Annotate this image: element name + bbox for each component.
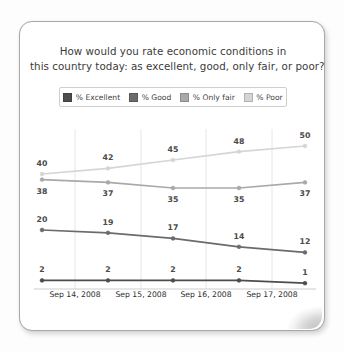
data-point-label: 1 [302, 268, 307, 277]
series-line [42, 230, 305, 252]
data-point-label: 2 [236, 265, 241, 274]
data-point[interactable] [40, 178, 44, 182]
data-point-label: 45 [168, 145, 179, 154]
data-point[interactable] [171, 186, 175, 190]
data-point-label: 2 [170, 265, 175, 274]
data-point-label: 35 [168, 195, 179, 204]
data-point[interactable] [303, 281, 307, 285]
data-point-label: 37 [103, 189, 114, 198]
x-axis-labels: Sep 14, 2008Sep 15, 2008Sep 16, 2008Sep … [20, 290, 326, 304]
data-point-label: 20 [37, 215, 48, 224]
x-axis-tick-label: Sep 16, 2008 [180, 290, 231, 299]
data-point-label: 50 [300, 131, 311, 140]
data-point[interactable] [106, 167, 110, 171]
data-point-label: 12 [300, 237, 311, 246]
data-point[interactable] [303, 251, 307, 255]
chart-svg [20, 22, 326, 332]
data-point[interactable] [106, 181, 110, 185]
data-point[interactable] [237, 186, 241, 190]
data-point-label: 37 [300, 189, 311, 198]
chart-card: How would you rate economic conditions i… [19, 21, 325, 331]
data-point-label: 38 [37, 186, 48, 195]
data-point-label: 2 [39, 265, 44, 274]
data-point[interactable] [40, 228, 44, 232]
data-point[interactable] [171, 158, 175, 162]
data-point[interactable] [237, 150, 241, 154]
data-point[interactable] [171, 237, 175, 241]
data-point-label: 40 [37, 159, 48, 168]
data-point[interactable] [237, 279, 241, 283]
data-point[interactable] [303, 181, 307, 185]
x-axis-tick-label: Sep 15, 2008 [115, 290, 166, 299]
screenshot-root: How would you rate economic conditions i… [0, 0, 344, 352]
x-axis-tick-label: Sep 14, 2008 [49, 290, 100, 299]
data-point[interactable] [303, 144, 307, 148]
x-axis-tick-label: Sep 17, 2008 [246, 290, 297, 299]
data-point[interactable] [171, 279, 175, 283]
data-point-label: 42 [103, 153, 114, 162]
data-point-label: 19 [103, 217, 114, 226]
data-point-label: 17 [168, 223, 179, 232]
data-point[interactable] [40, 172, 44, 176]
data-point[interactable] [40, 279, 44, 283]
data-point-label: 14 [234, 231, 245, 240]
data-point[interactable] [237, 245, 241, 249]
data-point[interactable] [106, 279, 110, 283]
data-point-label: 48 [234, 136, 245, 145]
data-point-label: 35 [234, 195, 245, 204]
data-point[interactable] [106, 231, 110, 235]
chart-plot-area: 22221201917141238373535374042454850 Sep … [20, 22, 326, 332]
data-point-label: 2 [105, 265, 110, 274]
